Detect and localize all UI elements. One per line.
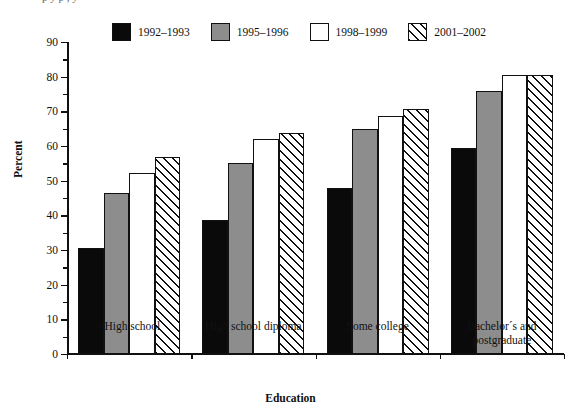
y-axis-title: Percent <box>12 141 24 178</box>
legend-label: 1998–1999 <box>336 26 388 38</box>
legend-label: 1992–1993 <box>138 26 190 38</box>
bar <box>403 109 429 354</box>
y-tick-label: 10 <box>47 313 59 325</box>
legend-item: 1995–1996 <box>211 23 289 41</box>
y-tick-label: 20 <box>47 279 59 291</box>
legend-swatch-icon <box>408 23 427 41</box>
x-category-label: Some college <box>316 320 440 334</box>
y-tick-label: 60 <box>47 140 59 152</box>
bar <box>78 248 104 354</box>
chart-legend: 1992–19931995–19961998–19992001–2002 <box>112 22 507 42</box>
x-category-label-line: Bachelor´s and <box>440 320 564 334</box>
legend-swatch-icon <box>112 23 131 41</box>
legend-item: 1992–1993 <box>112 23 190 41</box>
x-tick-mark <box>440 354 441 359</box>
x-axis-title: Education <box>0 392 581 404</box>
x-tick-mark <box>191 354 192 359</box>
y-tick-label: 70 <box>47 105 59 117</box>
clipped-caption: p y p , y <box>42 0 542 3</box>
bars-layer <box>67 42 564 354</box>
legend-swatch-icon <box>211 23 230 41</box>
legend-swatch-icon <box>310 23 329 41</box>
bar-chart-figure: p y p , y 1992–19931995–19961998–1999200… <box>0 0 581 419</box>
legend-label: 1995–1996 <box>237 26 289 38</box>
bar <box>476 91 502 354</box>
bar <box>202 220 228 354</box>
bar <box>502 75 528 354</box>
x-category-label: High school diploma <box>191 320 315 334</box>
x-tick-mark <box>316 354 317 359</box>
y-tick-label: 50 <box>47 175 59 187</box>
bar <box>527 75 553 354</box>
x-tick-mark <box>564 354 565 359</box>
x-tick-mark-origin <box>67 354 68 359</box>
x-category-label-line: postgraduate <box>440 334 564 348</box>
x-category-label-line: Some college <box>316 320 440 334</box>
legend-item: 2001–2002 <box>408 23 486 41</box>
x-category-label-line: <High school <box>67 320 191 334</box>
x-category-label-line: High school diploma <box>191 320 315 334</box>
legend-item: 1998–1999 <box>310 23 388 41</box>
y-tick-label: 0 <box>52 348 58 360</box>
y-tick-label: 40 <box>47 209 59 221</box>
y-tick-label: 80 <box>47 71 59 83</box>
y-tick-label: 90 <box>47 36 59 48</box>
y-tick-label: 30 <box>47 244 59 256</box>
plot-area: 0102030405060708090 <box>67 42 564 354</box>
x-category-label: Bachelor´s andpostgraduate <box>440 320 564 347</box>
legend-label: 2001–2002 <box>434 26 486 38</box>
bar <box>378 116 404 354</box>
x-category-label: <High school <box>67 320 191 334</box>
